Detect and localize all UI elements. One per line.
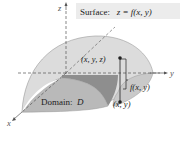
surface-equation: z = f(x, y)	[117, 7, 152, 17]
z-axis-label: z	[58, 4, 61, 13]
label-height: f(x, y)	[130, 83, 150, 92]
domain-label: Domain: D	[41, 98, 84, 107]
surface-diagram	[0, 0, 183, 141]
label-point-xyz: (x, y, z)	[81, 55, 106, 64]
point-xyz-dot	[118, 56, 122, 60]
y-axis-arrow	[164, 72, 168, 75]
z-axis-arrow	[65, 2, 68, 6]
label-point-xy: (x, y)	[113, 100, 130, 109]
domain-text: Domain:	[41, 97, 73, 107]
domain-symbol: D	[77, 97, 84, 107]
surface-label-prefix: Surface:	[80, 7, 110, 17]
x-axis-label: x	[7, 119, 11, 128]
y-axis-label: y	[170, 69, 174, 78]
surface-label: Surface: z = f(x, y)	[80, 7, 152, 17]
